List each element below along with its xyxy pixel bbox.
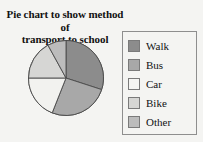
legend-swatch-other: [128, 116, 140, 128]
legend-label-other: Other: [146, 116, 171, 128]
legend-item-bike[interactable]: Bike: [128, 93, 196, 112]
legend-label-walk: Walk: [146, 40, 169, 52]
legend: Walk Bus Car Bike Other: [122, 31, 197, 135]
legend-swatch-car: [128, 78, 140, 90]
legend-label-bus: Bus: [146, 59, 163, 71]
legend-swatch-walk: [128, 40, 140, 52]
legend-label-car: Car: [146, 78, 162, 90]
legend-item-walk[interactable]: Walk: [128, 36, 196, 55]
chart-title-line-1: Pie chart to show method of: [4, 8, 126, 33]
legend-item-other[interactable]: Other: [128, 112, 196, 131]
legend-item-car[interactable]: Car: [128, 74, 196, 93]
legend-label-bike: Bike: [146, 97, 167, 109]
pie-chart-plot-area: [28, 40, 104, 116]
legend-item-bus[interactable]: Bus: [128, 55, 196, 74]
legend-swatch-bus: [128, 59, 140, 71]
pie-slice-group: [29, 41, 104, 116]
pie-chart-figure: Pie chart to show method of transport to…: [0, 0, 203, 142]
legend-swatch-bike: [128, 97, 140, 109]
pie-chart-svg: [28, 40, 104, 116]
